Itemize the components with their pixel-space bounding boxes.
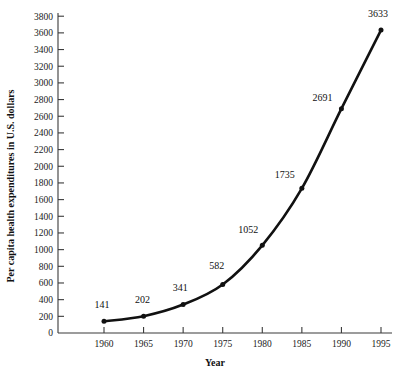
x-tick-label-1965: 1965 [134,339,153,349]
data-point-1975 [220,282,225,287]
y-tick-label-0: 0 [48,328,53,338]
y-tick-label-3400: 3400 [34,45,53,55]
line-chart: 0200400600800100012001400160018002000220… [0,0,406,379]
data-point-1990 [339,106,344,111]
value-label-1995: 3633 [368,8,388,19]
data-point-markers [102,28,384,324]
data-point-1980 [260,243,265,248]
y-tick-label-2200: 2200 [34,145,53,155]
x-tick-label-1990: 1990 [332,339,351,349]
y-tick-label-3200: 3200 [34,62,53,72]
x-tick-label-1995: 1995 [372,339,391,349]
value-label-1970: 341 [173,282,188,293]
y-tick-label-3600: 3600 [34,28,53,38]
y-tick-label-2800: 2800 [34,95,53,105]
data-series-line [104,30,381,321]
x-tick-label-1960: 1960 [95,339,114,349]
value-label-1985: 1735 [275,169,295,180]
data-point-1960 [102,319,107,324]
y-tick-label-200: 200 [39,312,54,322]
y-axis-title: Per capita health expenditures in U.S. d… [5,89,16,282]
x-axis-ticks: 19601965197019751980198519901995 [95,327,391,349]
y-tick-label-2600: 2600 [34,112,53,122]
y-tick-label-400: 400 [39,295,54,305]
data-point-1995 [379,28,384,33]
x-axis-title: Year [205,357,226,368]
x-tick-label-1970: 1970 [174,339,193,349]
y-tick-label-1400: 1400 [34,212,53,222]
x-tick-label-1980: 1980 [253,339,272,349]
y-tick-label-600: 600 [39,278,54,288]
data-point-labels: 1412023415821052173526913633 [95,8,389,310]
y-axis-ticks: 0200400600800100012001400160018002000220… [34,12,64,339]
y-tick-label-1000: 1000 [34,245,53,255]
value-label-1965: 202 [135,294,150,305]
y-tick-label-2000: 2000 [34,162,53,172]
x-tick-label-1985: 1985 [292,339,311,349]
chart-figure: 0200400600800100012001400160018002000220… [0,0,406,379]
data-point-1985 [299,186,304,191]
x-tick-label-1975: 1975 [213,339,232,349]
data-point-1965 [141,314,146,319]
data-point-1970 [181,302,186,307]
y-tick-label-1600: 1600 [34,195,53,205]
value-label-1990: 2691 [312,92,332,103]
y-tick-label-1200: 1200 [34,228,53,238]
value-label-1960: 141 [95,299,110,310]
y-tick-label-3800: 3800 [34,12,53,22]
value-label-1980: 1052 [238,224,258,235]
value-label-1975: 582 [209,260,224,271]
y-tick-label-1800: 1800 [34,178,53,188]
y-tick-label-800: 800 [39,262,54,272]
y-tick-label-3000: 3000 [34,78,53,88]
y-tick-label-2400: 2400 [34,128,53,138]
